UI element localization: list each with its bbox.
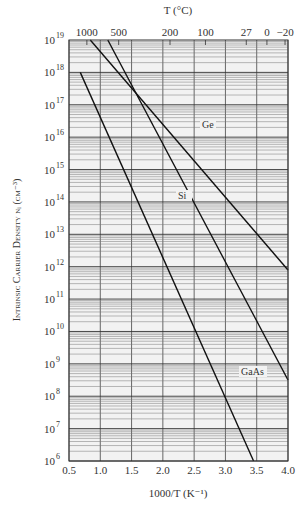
x-tick-label: 1.0	[93, 464, 107, 476]
x-axis-ticks: 0.51.01.52.02.53.03.54.0	[62, 464, 295, 476]
y-tick-label: 10	[44, 196, 56, 208]
x-axis-title: 1000/T (K⁻¹)	[149, 487, 208, 500]
y-axis-title: Intrinsic Carrier Density nᵢ (cm⁻³)	[11, 179, 23, 322]
intrinsic-carrier-density-chart: GeSiGaAs 0.51.01.52.02.53.03.54.0 106107…	[0, 0, 307, 507]
y-tick-exponent: 7	[56, 420, 60, 429]
y-tick-label: 10	[44, 164, 56, 176]
y-tick-exponent: 19	[56, 31, 64, 40]
y-tick-label: 10	[44, 261, 56, 273]
y-tick-exponent: 17	[56, 96, 64, 105]
top-tick-label: 200	[162, 26, 179, 38]
y-tick-exponent: 16	[56, 128, 64, 137]
y-tick-label: 10	[44, 131, 56, 143]
x-tick-label: 2.5	[187, 464, 201, 476]
y-tick-exponent: 13	[56, 225, 64, 234]
y-tick-exponent: 15	[56, 161, 64, 170]
curve-label-si: Si	[178, 190, 187, 201]
curve-label-gaas: GaAs	[241, 366, 264, 377]
x-tick-label: 3.5	[250, 464, 264, 476]
top-tick-label: 0	[264, 26, 270, 38]
top-tick-label: 500	[110, 26, 127, 38]
y-tick-label: 10	[44, 423, 56, 435]
y-tick-label: 10	[44, 325, 56, 337]
y-tick-exponent: 6	[56, 452, 60, 461]
y-tick-exponent: 14	[56, 193, 64, 202]
y-tick-label: 10	[44, 358, 56, 370]
y-tick-label: 10	[44, 34, 56, 46]
y-tick-label: 10	[44, 99, 56, 111]
x-tick-label: 1.5	[125, 464, 139, 476]
curve-label-ge: Ge	[202, 119, 214, 130]
top-tick-label: 1000	[76, 26, 99, 38]
y-tick-exponent: 12	[56, 258, 64, 267]
x-tick-label: 0.5	[62, 464, 76, 476]
y-tick-exponent: 11	[56, 290, 64, 299]
y-tick-exponent: 10	[56, 322, 64, 331]
y-tick-label: 10	[44, 293, 56, 305]
x-tick-label: 4.0	[281, 464, 295, 476]
y-tick-label: 10	[44, 228, 56, 240]
y-tick-label: 10	[44, 390, 56, 402]
y-tick-label: 10	[44, 66, 56, 78]
x-tick-label: 3.0	[219, 464, 233, 476]
top-axis-title: T (°C)	[164, 4, 193, 17]
x-tick-label: 2.0	[156, 464, 170, 476]
y-axis-ticks: 1061071081091010101110121013101410151016…	[44, 31, 64, 467]
top-tick-label: 100	[197, 26, 214, 38]
top-tick-label: −20	[276, 26, 294, 38]
y-tick-exponent: 9	[56, 355, 60, 364]
y-tick-exponent: 8	[56, 387, 60, 396]
y-tick-label: 10	[44, 455, 56, 467]
top-tick-label: 27	[241, 26, 253, 38]
y-tick-exponent: 18	[56, 63, 64, 72]
